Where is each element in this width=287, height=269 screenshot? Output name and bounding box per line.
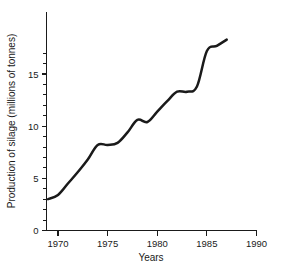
y-tick-label-0: 0 <box>33 225 38 236</box>
axes <box>47 12 257 231</box>
y-axis-title: Production of silage (millions of tonnes… <box>6 34 17 209</box>
x-tick-label-1990: 1990 <box>246 238 267 249</box>
x-tick-label-1970: 1970 <box>47 238 68 249</box>
x-axis-major-ticks <box>58 231 257 236</box>
y-tick-label-5: 5 <box>33 173 38 184</box>
x-tick-label-1985: 1985 <box>196 238 217 249</box>
y-axis-major-ticks <box>42 74 47 231</box>
silage-production-line-chart: 051015 19701975198019851990 Years Produc… <box>0 0 287 269</box>
x-tick-label-1975: 1975 <box>97 238 118 249</box>
x-tick-label-1980: 1980 <box>147 238 168 249</box>
x-axis-title: Years <box>138 252 163 263</box>
y-tick-label-15: 15 <box>28 69 39 80</box>
y-axis-tick-labels: 051015 <box>28 69 39 237</box>
x-axis-tick-labels: 19701975198019851990 <box>47 238 267 249</box>
y-tick-label-10: 10 <box>28 121 39 132</box>
data-series-line <box>48 40 227 200</box>
chart-canvas: 051015 19701975198019851990 Years Produc… <box>0 0 287 269</box>
